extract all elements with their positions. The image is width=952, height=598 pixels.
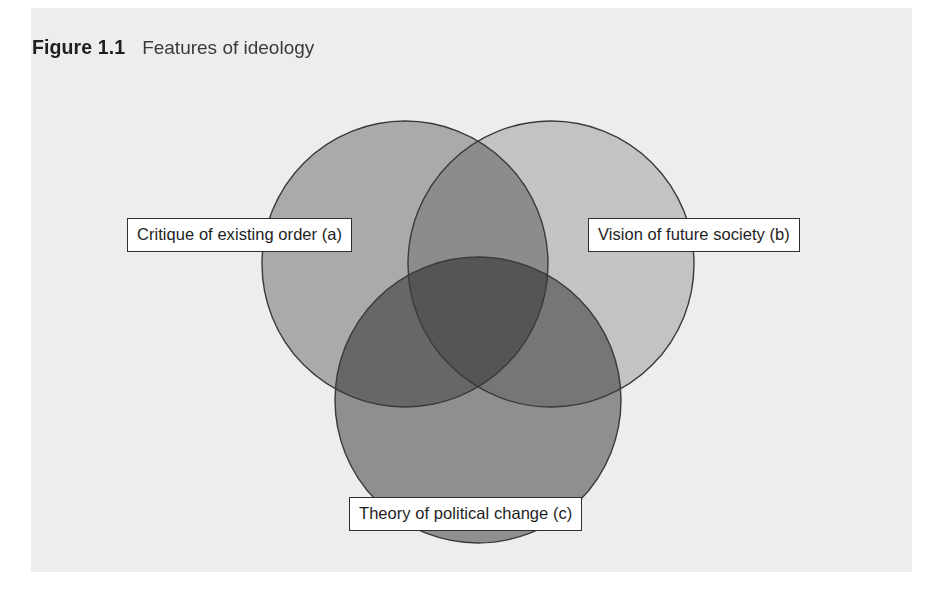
- venn-label-theory-of-political-change: Theory of political change (c): [349, 497, 582, 531]
- venn-label-critique-of-existing-order: Critique of existing order (a): [127, 218, 352, 252]
- figure-caption: Figure 1.1Features of ideology: [32, 38, 314, 58]
- figure-panel: [31, 8, 912, 572]
- figure-title: Features of ideology: [142, 37, 314, 58]
- figure-number: Figure 1.1: [32, 36, 125, 58]
- venn-label-vision-of-future-society: Vision of future society (b): [588, 218, 800, 252]
